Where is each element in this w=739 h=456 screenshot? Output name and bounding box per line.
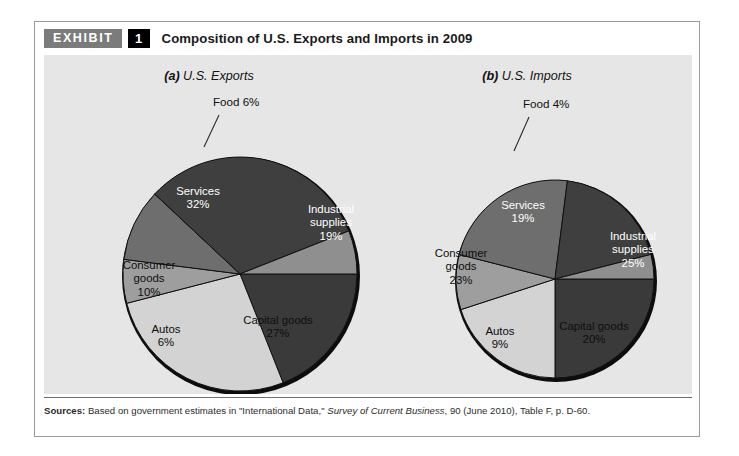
pie-label-exports-food: Food 6%: [213, 95, 259, 108]
pie-svg-exports: [44, 55, 374, 394]
pie-chart-imports: (b) U.S. Imports: [362, 55, 692, 394]
sources-text-before: Based on government estimates in "Intern…: [85, 405, 327, 416]
sources-note: Sources: Based on government estimates i…: [44, 405, 684, 418]
exhibit-number-badge: 1: [128, 29, 150, 48]
leader-line-exports-food: [204, 115, 219, 147]
sources-publication: Survey of Current Business: [327, 405, 444, 416]
exhibit-tag-label: EXHIBIT: [44, 29, 122, 48]
exhibit-header: EXHIBIT 1 Composition of U.S. Exports an…: [35, 22, 699, 55]
panel-divider-rule: [44, 397, 692, 398]
pie-label-imports-food: Food 4%: [523, 97, 569, 110]
exhibit-title: Composition of U.S. Exports and Imports …: [162, 31, 473, 46]
sources-text-after: , 90 (June 2010), Table F, p. D-60.: [445, 405, 591, 416]
pie-chart-exports: (a) U.S. Exports: [44, 55, 374, 394]
chart-panel: (a) U.S. Exports: [44, 55, 692, 394]
leader-line-imports-food: [514, 117, 529, 151]
pie-slice-imports-industrial-supplies: [555, 279, 654, 378]
exhibit-frame: EXHIBIT 1 Composition of U.S. Exports an…: [34, 21, 700, 437]
sources-label: Sources:: [44, 405, 85, 416]
